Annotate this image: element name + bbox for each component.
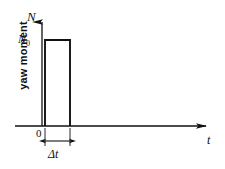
origin-label: 0 bbox=[36, 128, 42, 139]
duration-label-variable: t bbox=[55, 147, 58, 161]
plot-canvas bbox=[0, 0, 225, 169]
duration-label-delta: Δ bbox=[48, 147, 55, 161]
pulse-trace bbox=[45, 40, 70, 126]
x-axis-symbol-label: t bbox=[207, 134, 210, 146]
yaw-moment-pulse-figure: N t N0 0 Δt yaw moment bbox=[0, 0, 225, 169]
duration-label: Δt bbox=[48, 148, 58, 160]
y-axis-title: yaw moment bbox=[18, 11, 29, 101]
